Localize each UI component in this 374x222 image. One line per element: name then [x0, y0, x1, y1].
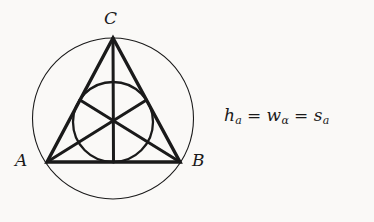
- formula-term-height: ha: [224, 105, 242, 125]
- formula-term-height-base: h: [224, 105, 235, 125]
- vertex-label-a: A: [15, 152, 27, 169]
- formula-term-height-subscript: a: [235, 114, 242, 127]
- formula-relation-second: =: [294, 105, 309, 125]
- cevian-from-c: [113, 38, 114, 162]
- formula-term-median-base: s: [314, 105, 323, 125]
- formula-term-median-subscript: a: [323, 114, 330, 127]
- formula-term-median: sa: [314, 105, 330, 125]
- figure-page: A B C ha=wα=sa: [0, 0, 374, 222]
- formula-expression: ha=wα=sa: [224, 107, 329, 126]
- formula-term-bisector: wα: [267, 105, 289, 125]
- vertex-label-c: C: [104, 10, 117, 27]
- vertex-label-b: B: [192, 152, 205, 169]
- formula-relation-first: =: [247, 105, 262, 125]
- formula-term-bisector-base: w: [267, 105, 282, 125]
- formula-term-bisector-subscript: α: [282, 114, 289, 127]
